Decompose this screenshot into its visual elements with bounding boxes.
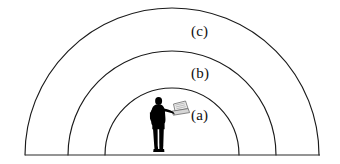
coverage-diagram: (c) (b) (a) bbox=[0, 0, 340, 164]
person-silhouette bbox=[150, 97, 175, 152]
person-with-laptop-icon bbox=[148, 95, 194, 155]
zone-label-middle: (b) bbox=[191, 66, 209, 81]
zone-label-outer: (c) bbox=[191, 24, 208, 39]
zone-label-inner: (a) bbox=[191, 108, 208, 123]
center-figure bbox=[148, 95, 194, 155]
laptop-icon bbox=[172, 101, 190, 115]
